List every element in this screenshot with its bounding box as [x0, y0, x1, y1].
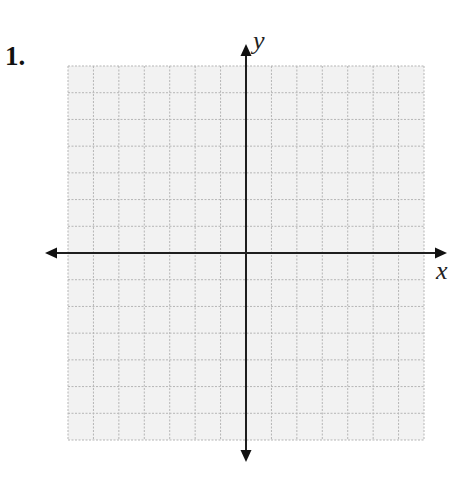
- x-axis-left-arrow-icon: [45, 248, 57, 259]
- y-axis-label: y: [253, 28, 265, 54]
- y-axis-top-arrow-icon: [241, 44, 252, 56]
- y-axis-bottom-arrow-icon: [241, 450, 252, 462]
- coordinate-plane: [0, 0, 475, 477]
- x-axis-label: x: [436, 258, 448, 284]
